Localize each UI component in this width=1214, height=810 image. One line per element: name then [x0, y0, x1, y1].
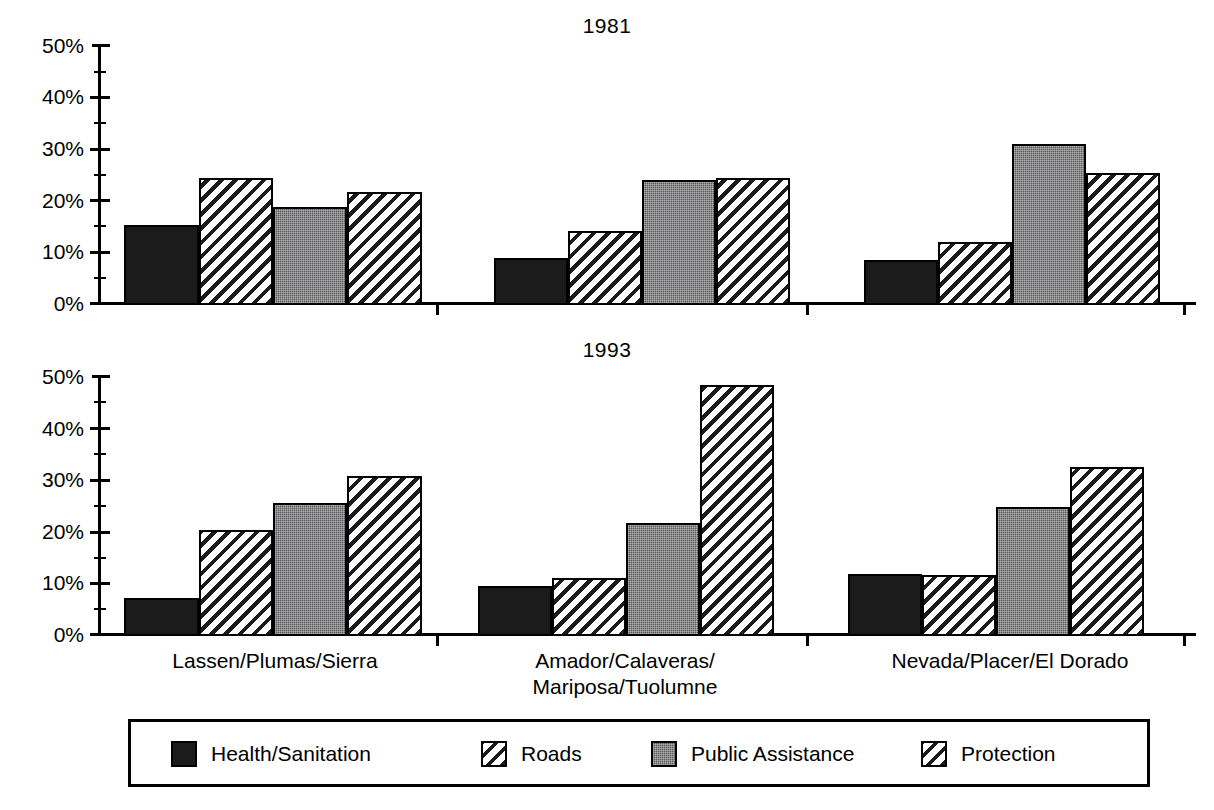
bar-1981-lassen-roads	[199, 178, 273, 305]
y-axis-tick-25	[94, 174, 106, 176]
legend-label-protection: Protection	[961, 742, 1056, 766]
bar-1981-nevada-health-sanitation	[864, 260, 938, 305]
y-axis-tick-25	[94, 505, 106, 507]
y-tick-label-0: 0%	[10, 293, 84, 314]
y-axis-tick-40	[90, 96, 110, 99]
y-tick-label-50: 50%	[10, 35, 84, 56]
y-axis-tick-30	[90, 148, 110, 151]
legend-swatch-health-sanitation-icon	[171, 741, 197, 767]
legend-label-public-assistance: Public Assistance	[691, 742, 854, 766]
x-axis-group-separator	[806, 302, 809, 315]
bar-1981-lassen-public-assistance	[273, 207, 347, 305]
y-axis-tick-15	[94, 557, 106, 559]
x-category-label-nevada: Nevada/Placer/El Dorado	[845, 648, 1175, 674]
y-tick-label-10: 10%	[10, 572, 84, 593]
bar-1981-nevada-public-assistance	[1012, 144, 1086, 305]
y-tick-label-30: 30%	[10, 138, 84, 159]
y-axis-tick-5	[94, 608, 106, 610]
chart-panel-1981: 1981 50% 40% 30% 20% 10% 0%	[0, 0, 1214, 330]
bar-1981-amador-health-sanitation	[494, 258, 568, 305]
y-axis-tick-20	[90, 531, 110, 534]
panel-title-1993: 1993	[0, 338, 1214, 362]
y-axis-tick-10	[90, 582, 110, 585]
y-axis-tick-35	[94, 122, 106, 124]
y-tick-label-30: 30%	[10, 469, 84, 490]
legend-label-roads: Roads	[521, 742, 582, 766]
y-axis-tick-20	[90, 199, 110, 202]
panel-title-1981: 1981	[0, 14, 1214, 38]
y-tick-label-20: 20%	[10, 190, 84, 211]
x-axis-group-separator	[1183, 302, 1186, 315]
y-axis-tick-5	[94, 277, 106, 279]
x-category-label-lassen: Lassen/Plumas/Sierra	[110, 648, 440, 674]
y-axis-tick-50	[92, 44, 110, 47]
legend-label-health-sanitation: Health/Sanitation	[211, 742, 371, 766]
y-axis-tick-30	[90, 479, 110, 482]
bar-1981-nevada-protection	[1086, 173, 1160, 305]
x-axis-group-separator	[806, 633, 809, 646]
y-axis-tick-50	[92, 375, 110, 378]
x-axis-group-separator	[436, 302, 439, 315]
bar-1981-amador-roads	[568, 231, 642, 305]
bar-1993-nevada-roads	[922, 575, 996, 636]
y-tick-label-40: 40%	[10, 86, 84, 107]
bar-1981-amador-protection	[716, 178, 790, 305]
y-axis-tick-45	[94, 401, 106, 403]
bar-1981-amador-public-assistance	[642, 180, 716, 305]
bar-1981-lassen-protection	[347, 192, 422, 305]
chart-panel-1993: 1993 50% 40% 30% 20% 10% 0%	[0, 330, 1214, 650]
bar-1993-lassen-health-sanitation	[124, 598, 199, 636]
bar-1981-lassen-health-sanitation	[124, 225, 199, 305]
y-axis-tick-40	[90, 427, 110, 430]
bar-1993-nevada-protection	[1070, 467, 1144, 636]
y-tick-label-20: 20%	[10, 521, 84, 542]
y-axis-tick-35	[94, 453, 106, 455]
x-axis-group-separator	[436, 633, 439, 646]
bar-1981-nevada-roads	[938, 242, 1012, 305]
y-tick-label-50: 50%	[10, 366, 84, 387]
bar-1993-amador-protection	[700, 385, 774, 636]
legend-swatch-public-assistance-icon	[651, 741, 677, 767]
bar-1993-nevada-health-sanitation	[848, 574, 922, 636]
y-axis-tick-10	[90, 251, 110, 254]
legend-item-protection: Protection	[921, 739, 1056, 769]
legend-item-health-sanitation: Health/Sanitation	[171, 739, 371, 769]
y-tick-label-40: 40%	[10, 418, 84, 439]
x-axis-group-separator	[1183, 633, 1186, 646]
bar-1993-amador-public-assistance	[626, 523, 700, 636]
y-axis-tick-45	[94, 71, 106, 73]
bar-1993-amador-health-sanitation	[478, 586, 552, 636]
legend-swatch-protection-icon	[921, 741, 947, 767]
legend-item-public-assistance: Public Assistance	[651, 739, 854, 769]
bar-1993-lassen-roads	[199, 530, 273, 636]
grouped-bar-chart-figure: 1981 50% 40% 30% 20% 10% 0%	[0, 0, 1214, 810]
chart-legend: Health/Sanitation Roads Public Assistanc…	[128, 719, 1150, 787]
y-tick-label-0: 0%	[10, 624, 84, 645]
legend-item-roads: Roads	[481, 739, 582, 769]
bar-1993-nevada-public-assistance	[996, 507, 1070, 636]
bar-1993-lassen-public-assistance	[273, 503, 347, 636]
y-tick-label-10: 10%	[10, 241, 84, 262]
legend-swatch-roads-icon	[481, 741, 507, 767]
bar-1993-amador-roads	[552, 578, 626, 636]
y-axis-tick-15	[94, 225, 106, 227]
x-category-label-amador: Amador/Calaveras/ Mariposa/Tuolumne	[460, 648, 790, 700]
bar-1993-lassen-protection	[347, 476, 422, 636]
